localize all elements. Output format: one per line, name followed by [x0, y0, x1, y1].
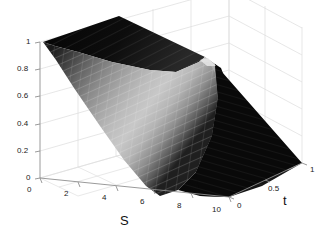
- x-tick-label-0: 0: [27, 186, 31, 194]
- z-tick-label-0-6: 0.6: [17, 92, 28, 100]
- x-tick-label-10: 10: [212, 206, 221, 214]
- x-tick-label-2: 2: [64, 190, 68, 198]
- y-tick-label-0-5: 0.5: [268, 185, 279, 193]
- z-tick-label-0: 0: [26, 174, 30, 182]
- y-axis-label: t: [283, 194, 287, 207]
- x-tick-label-4: 4: [102, 194, 106, 202]
- x-axis-label: S: [120, 214, 129, 227]
- z-tick-label-0-2: 0.2: [17, 147, 28, 155]
- z-tick-label-0-4: 0.4: [17, 120, 28, 128]
- z-tick-label-1: 1: [26, 38, 30, 46]
- y-tick-label-0: 0: [237, 202, 241, 210]
- plot-canvas: [0, 0, 330, 233]
- y-tick-label-1: 1: [310, 166, 314, 174]
- z-tick-label-0-8: 0.8: [17, 65, 28, 73]
- x-tick-label-8: 8: [177, 202, 181, 210]
- surface-plot-figure: 1 0.8 0.6 0.4 0.2 0 0 2 4 6 8 10 0 0.5 1…: [0, 0, 330, 233]
- x-tick-label-6: 6: [140, 198, 144, 206]
